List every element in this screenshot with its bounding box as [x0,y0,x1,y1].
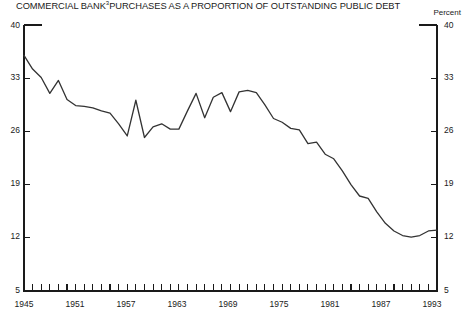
chart-plot-area [0,0,467,317]
chart-figure: COMMERCIAL BANK3PURCHASES AS A PROPORTIO… [0,0,467,317]
chart-data-line [24,55,437,237]
chart-axes [24,25,437,291]
